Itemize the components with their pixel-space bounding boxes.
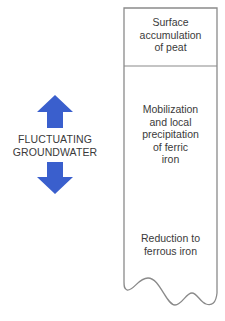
zone-text-line: precipitation xyxy=(124,128,217,141)
zone-ferric-iron: Mobilization and local precipitation of … xyxy=(124,103,217,166)
groundwater-label: FLUCTUATING GROUNDWATER xyxy=(0,133,110,159)
arrow-down-icon xyxy=(37,162,73,194)
zone-text-line: ferrous iron xyxy=(124,245,217,258)
zone-ferrous-iron: Reduction to ferrous iron xyxy=(124,232,217,257)
zone-text-line: accumulation xyxy=(124,29,217,42)
zone-text-line: and local xyxy=(124,116,217,129)
zone-text-line: iron xyxy=(124,153,217,166)
zone-text-line: of peat xyxy=(124,41,217,54)
zone-text-line: of ferric xyxy=(124,141,217,154)
arrow-up-icon xyxy=(37,95,73,128)
groundwater-label-line1: FLUCTUATING xyxy=(0,133,110,146)
groundwater-label-line2: GROUNDWATER xyxy=(0,146,110,159)
zone-text-line: Mobilization xyxy=(124,103,217,116)
zone-text-line: Surface xyxy=(124,16,217,29)
zone-surface-peat: Surface accumulation of peat xyxy=(124,16,217,54)
zone-text-line: Reduction to xyxy=(124,232,217,245)
